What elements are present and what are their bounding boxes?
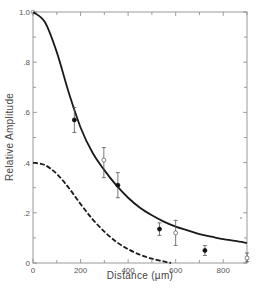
y-tick-label: 0 xyxy=(26,259,31,268)
y-axis-title: Relative Amplitude xyxy=(4,93,15,181)
y-tick-label: .8 xyxy=(23,58,30,67)
filled-marker xyxy=(116,183,120,187)
filled-marker xyxy=(203,248,207,252)
plot-axes xyxy=(33,12,247,263)
open-data-point xyxy=(102,148,106,178)
open-data-point xyxy=(174,220,178,245)
y-tick-label: 1.0 xyxy=(19,8,31,17)
filled-data-point xyxy=(116,173,120,198)
solid-curve xyxy=(33,12,247,243)
x-tick-label: 800 xyxy=(217,266,231,275)
x-axis-title: Distance (µm) xyxy=(107,270,173,281)
open-marker xyxy=(245,256,249,260)
filled-marker xyxy=(157,227,161,231)
filled-data-point xyxy=(72,107,76,132)
tick-marks xyxy=(31,10,247,263)
chart: 0200400600800 0.2.4.6.81.0 Distance (µm)… xyxy=(0,0,256,289)
open-marker xyxy=(102,158,106,162)
curves xyxy=(33,12,247,263)
x-tick-label: 200 xyxy=(74,266,88,275)
filled-data-point xyxy=(157,223,161,236)
filled-marker xyxy=(72,118,76,122)
plot-frame xyxy=(33,12,247,263)
y-tick-label: .6 xyxy=(23,108,30,117)
x-tick-label: 0 xyxy=(31,266,36,275)
y-tick-labels: 0.2.4.6.81.0 xyxy=(19,8,31,268)
y-tick-label: .4 xyxy=(23,159,30,168)
filled-data-point xyxy=(203,245,207,255)
open-data-point xyxy=(245,253,249,262)
open-marker xyxy=(174,231,178,235)
y-tick-label: .2 xyxy=(23,209,30,218)
